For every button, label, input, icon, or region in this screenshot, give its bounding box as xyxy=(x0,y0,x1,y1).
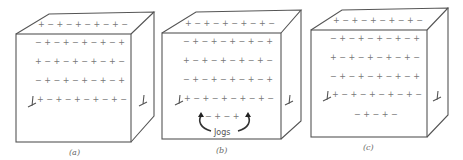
charge-rows-c: + − + − + − + − + − − + − + − + − + − + … xyxy=(330,16,423,119)
dislocation-symbol-right-icon xyxy=(139,95,147,106)
charge-row: + − + − + − + − + − xyxy=(37,95,127,104)
jog-arrow-right-icon xyxy=(238,116,249,131)
charge-row: − + − + − + − + − + xyxy=(330,34,420,43)
charge-rows-b: + − + − + − + − + − − + − + − + − + − + … xyxy=(183,19,275,121)
charge-row: + − + − + − + − + − xyxy=(35,57,125,66)
charge-row: + − + − + − + − + − xyxy=(184,94,274,103)
charge-row: − + − + − + − + − + xyxy=(35,76,125,85)
caption-a: (a) xyxy=(69,148,80,157)
panel-b: + − + − + − + − + − − + − + − + − + − + … xyxy=(162,10,301,155)
dislocation-symbol-left-icon xyxy=(323,91,331,101)
cube-a-side-face xyxy=(131,12,154,142)
charge-row: + − + − + − + − + − xyxy=(38,20,128,29)
charge-rows-a: + − + − + − + − + − − + − + − + − + − + … xyxy=(35,20,128,104)
dislocation-symbol-right-icon xyxy=(433,91,441,101)
cube-c-front-face xyxy=(311,30,427,137)
panel-a: + − + − + − + − + − − + − + − + − + − + … xyxy=(16,12,154,157)
caption-c: (c) xyxy=(363,143,374,152)
caption-b: (b) xyxy=(216,146,227,155)
cube-b-front-face xyxy=(162,33,281,139)
charge-row: + − + − + − + − + − xyxy=(330,53,420,62)
charge-row: − + − + − + − + − + xyxy=(183,37,273,46)
dislocation-figure: + − + − + − + − + − − + − + − + − + − + … xyxy=(0,0,463,160)
charge-row: + − + − + − + − + − xyxy=(332,90,422,99)
charge-row: + − + − + − + − + − xyxy=(185,19,275,28)
charge-row-extra: − + − + xyxy=(205,112,239,121)
panel-c: + − + − + − + − + − − + − + − + − + − + … xyxy=(311,8,448,152)
charge-row: − + − + − + − + − + xyxy=(183,75,273,84)
jog-arrowhead-left-icon xyxy=(198,112,204,117)
charge-row-extra: − + − + − xyxy=(354,110,398,119)
dislocation-symbol-right-icon xyxy=(285,95,293,105)
charge-row: + − + − + − + − + − xyxy=(183,56,273,65)
dislocation-symbol-left-icon xyxy=(28,96,36,107)
jog-arrowhead-right-icon xyxy=(245,112,251,117)
dislocation-symbol-left-icon xyxy=(175,95,183,105)
charge-row: − + − + − + − + − + xyxy=(330,72,420,81)
jogs-label: Jogs xyxy=(213,128,231,137)
charge-row: + − + − + − + − + − xyxy=(333,16,423,25)
charge-row: − + − + − + − + − + xyxy=(35,38,125,47)
cube-a-front-face xyxy=(16,34,131,142)
